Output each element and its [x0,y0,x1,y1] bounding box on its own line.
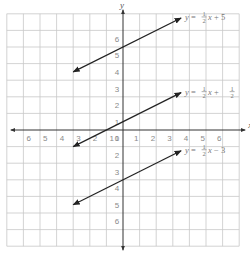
y-tick-label: 6 [115,35,120,44]
y-tick-label: 4 [115,184,120,193]
y-tick-label: 4 [115,68,120,77]
x-tick-label: 5 [43,134,48,143]
y-tick-label: 3 [115,85,120,94]
x-tick-label: 4 [184,134,189,143]
x-tick-label: 1 [109,134,114,143]
y-axis-label: y [119,0,124,10]
equation-rest: x + 5 [207,12,225,22]
equation-label: y = [184,145,196,155]
fraction-denominator: 2 [202,150,205,157]
svg-text:2: 2 [230,92,233,99]
equation-label: y = [184,87,196,97]
coordinate-plane: xy 6543210123456123456123456 y = 12x + 5… [0,0,250,258]
fraction-denominator: 2 [202,17,205,24]
svg-text:1: 1 [230,85,233,92]
x-tick-label: 1 [134,134,139,143]
fraction-denominator: 2 [202,92,205,99]
y-tick-label: 5 [115,201,120,210]
x-tick-label: 3 [167,134,172,143]
x-tick-label: 3 [76,134,81,143]
x-tick-label: 6 [26,134,31,143]
line-series [73,93,181,147]
equation-label: y = [184,12,196,22]
x-tick-label: 5 [200,134,205,143]
y-tick-label: 2 [115,151,120,160]
fraction-numerator: 1 [202,85,205,92]
fraction-numerator: 1 [202,10,205,17]
y-tick-label: 3 [115,168,120,177]
y-tick-label: 2 [115,101,120,110]
x-tick-label: 4 [60,134,65,143]
y-tick-label: 5 [115,51,120,60]
equation-labels: y = 12x + 5y = 12x + 12y = 12x − 3 [184,10,235,157]
y-tick-label: 6 [115,217,120,226]
equation-rest: x − 3 [207,145,225,155]
plotted-lines [73,18,181,205]
fraction-numerator: 1 [202,143,205,150]
x-tick-label: 2 [151,134,156,143]
y-tick-label: 1 [115,134,120,143]
x-axis-label: x [247,120,250,130]
equation-rest: x + [207,87,219,97]
x-tick-label: 6 [217,134,222,143]
